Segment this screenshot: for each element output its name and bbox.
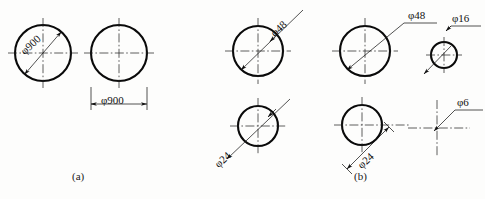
dim-label-a2: φ900 bbox=[101, 94, 124, 106]
panel-caption-b: (b) bbox=[354, 170, 367, 182]
circle-phi48-diagonal bbox=[225, 10, 303, 84]
panel-caption-a: (a) bbox=[72, 170, 84, 182]
circle-phi24-diagonal bbox=[227, 98, 290, 159]
circle-phi48-leader bbox=[332, 18, 437, 84]
circle-phi16-leader bbox=[424, 26, 481, 74]
technical-drawing-figure: φ900 φ900 φ48 φ48 φ16 φ24 φ24 φ6 (a) (b) bbox=[0, 0, 485, 199]
dim-label-b3: φ16 bbox=[452, 12, 469, 24]
dim-label-b2: φ48 bbox=[408, 9, 425, 21]
centermark-phi6-leader bbox=[408, 100, 483, 156]
dim-label-b6: φ6 bbox=[457, 96, 469, 108]
large-circle-diagonal-dim bbox=[8, 18, 78, 88]
